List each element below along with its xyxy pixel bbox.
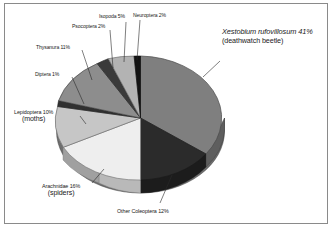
slice-label-neuroptera-text: Neuroptera 2% bbox=[133, 12, 166, 18]
slice-label-psocoptera: Psocoptera 2% bbox=[72, 23, 105, 29]
slice-label-neuroptera: Neuroptera 2% bbox=[133, 12, 166, 18]
slice-label-lepidoptera-line2: (moths) bbox=[14, 115, 53, 123]
slice-label-lepidoptera: Lepidoptera 10% (moths) bbox=[14, 109, 53, 124]
slice-label-other-coleoptera-text: Other Coleoptera 12% bbox=[117, 208, 169, 214]
slice-label-xestobium-line2: (deathwatch beetle) bbox=[222, 37, 313, 45]
slice-label-other-coleoptera: Other Coleoptera 12% bbox=[117, 208, 169, 214]
slice-label-psocoptera-text: Psocoptera 2% bbox=[72, 23, 105, 29]
slice-label-thysanura: Thysanura 11% bbox=[36, 44, 70, 50]
slice-label-diptera: Diptera 1% bbox=[35, 71, 59, 77]
slice-label-thysanura-text: Thysanura 11% bbox=[36, 44, 70, 50]
slice-label-xestobium: Xestobium rufovillosum 41% (deathwatch b… bbox=[222, 28, 313, 45]
slice-label-isopoda: Isopoda 5% bbox=[99, 13, 125, 19]
slice-label-arachnidae-line1: Arachnidae 16% bbox=[42, 183, 80, 189]
pie-slices bbox=[55, 56, 221, 180]
slice-label-xestobium-line1: Xestobium rufovillosum 41% bbox=[222, 27, 313, 36]
slice-label-diptera-text: Diptera 1% bbox=[35, 71, 59, 77]
slice-label-lepidoptera-line1: Lepidoptera 10% bbox=[14, 109, 53, 115]
leader-line-main bbox=[203, 61, 220, 77]
slice-label-arachnidae: Arachnidae 16% (spiders) bbox=[42, 183, 80, 198]
slice-label-isopoda-text: Isopoda 5% bbox=[99, 13, 125, 19]
leader-line-neuroptera bbox=[137, 20, 140, 60]
pie-chart-figure: Xestobium rufovillosum 41% (deathwatch b… bbox=[0, 0, 333, 228]
slice-label-arachnidae-line2: (spiders) bbox=[42, 189, 80, 197]
